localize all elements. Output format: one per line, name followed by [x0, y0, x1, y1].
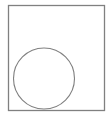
- circle-shape: [14, 48, 75, 109]
- frame-rectangle: [9, 6, 105, 111]
- diagram-canvas: [0, 0, 112, 119]
